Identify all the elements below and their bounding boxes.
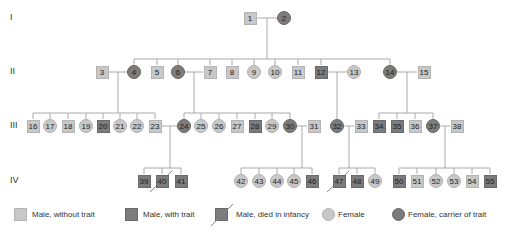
individual-33-male-without-trait: 33 [355,120,368,133]
individual-32-female-carrier: 32 [330,119,344,133]
individual-26-female-normal: 26 [212,119,226,133]
individual-38-male-without-trait: 38 [451,120,464,133]
individual-41-male-with-trait: 41 [175,175,188,188]
legend-label: Female [338,210,365,219]
individual-4-female-carrier: 4 [127,65,141,79]
individual-20-male-with-trait: 20 [97,120,110,133]
light-circle-icon [322,208,335,221]
legend-item-female: Female [322,208,365,221]
generation-label-I: I [10,12,13,22]
individual-48-male-with-trait: 48 [351,175,364,188]
dark-circle-icon [392,208,405,221]
individual-2-female-carrier: 2 [277,11,291,25]
individual-43-female-normal: 43 [252,174,266,188]
legend-item-male-died-infancy: Male, died in infancy [215,208,309,221]
individual-17-female-normal: 17 [43,119,57,133]
individual-45-female-normal: 45 [287,174,301,188]
slashed-square-icon [215,208,228,221]
generation-label-III: III [10,120,18,130]
individual-24-female-carrier: 24 [177,119,191,133]
individual-15-male-without-trait: 15 [418,66,431,79]
individual-5-male-without-trait: 5 [151,66,164,79]
individual-37-female-carrier: 37 [426,119,440,133]
legend-item-female-carrier: Female, carrier of trait [392,208,486,221]
individual-22-female-normal: 22 [130,119,144,133]
legend-label: Male, with trait [143,210,195,219]
individual-40-male-died-in-infancy: 40 [156,175,169,188]
individual-46-male-with-trait: 46 [306,175,319,188]
individual-31-male-without-trait: 31 [308,120,321,133]
legend-item-male-with-trait: Male, with trait [125,208,195,221]
individual-35-male-with-trait: 35 [391,120,404,133]
individual-53-female-normal: 53 [447,174,461,188]
legend-label: Male, without trait [32,210,95,219]
individual-6-female-carrier: 6 [171,65,185,79]
legend-item-male-without-trait: Male, without trait [14,208,95,221]
legend-label: Male, died in infancy [236,210,309,219]
individual-13-female-normal: 13 [347,65,361,79]
individual-21-female-normal: 21 [113,119,127,133]
individual-50-male-with-trait: 50 [393,175,406,188]
individual-12-male-with-trait: 12 [315,66,328,79]
individual-27-male-without-trait: 27 [231,120,244,133]
individual-9-female-normal: 9 [247,65,261,79]
individual-8-male-without-trait: 8 [226,66,239,79]
individual-51-male-without-trait: 51 [411,175,424,188]
individual-52-female-normal: 52 [429,174,443,188]
individual-47-male-died-in-infancy: 47 [333,175,346,188]
individual-14-female-carrier: 14 [383,65,397,79]
dark-square-icon [125,208,138,221]
legend: Male, without trait Male, with trait Mal… [0,208,508,228]
individual-10-female-normal: 10 [268,65,282,79]
individual-55-male-with-trait: 55 [484,175,497,188]
individual-25-female-normal: 25 [194,119,208,133]
individual-19-female-normal: 19 [79,119,93,133]
individual-54-male-without-trait: 54 [466,175,479,188]
individual-16-male-without-trait: 16 [27,120,40,133]
individual-36-male-without-trait: 36 [409,120,422,133]
pedigree-chart [0,0,508,236]
individual-29-female-normal: 29 [265,119,279,133]
individual-49-female-normal: 49 [368,174,382,188]
individual-28-male-with-trait: 28 [249,120,262,133]
individual-42-female-normal: 42 [234,174,248,188]
individual-44-female-normal: 44 [270,174,284,188]
legend-label: Female, carrier of trait [408,210,486,219]
generation-label-II: II [10,66,15,76]
individual-30-female-carrier: 30 [283,119,297,133]
individual-39-male-with-trait: 39 [138,175,151,188]
light-square-icon [14,208,27,221]
individual-11-male-without-trait: 11 [292,66,305,79]
generation-label-IV: IV [10,175,19,185]
individual-3-male-without-trait: 3 [96,66,109,79]
individual-1-male-without-trait: 1 [244,12,257,25]
individual-18-male-without-trait: 18 [62,120,75,133]
individual-23-male-without-trait: 23 [149,120,162,133]
individual-7-male-without-trait: 7 [204,66,217,79]
individual-34-male-with-trait: 34 [373,120,386,133]
